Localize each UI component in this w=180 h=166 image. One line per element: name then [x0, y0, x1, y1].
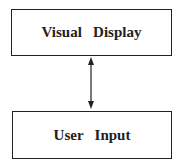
arrow-head-down-icon [88, 101, 94, 109]
arrow-head-up-icon [88, 57, 94, 65]
user-input-box: User Input [12, 111, 172, 159]
user-input-label: User Input [54, 127, 131, 144]
